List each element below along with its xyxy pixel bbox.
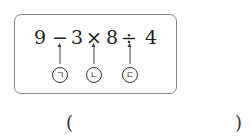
arrow-up-icon: [130, 46, 131, 64]
arrow-up-icon: [60, 46, 61, 64]
arrow-up-icon: [94, 46, 95, 64]
number-9: 9: [34, 24, 46, 50]
answer-blank[interactable]: [76, 112, 232, 134]
marker-giyeok: ㄱ: [52, 67, 68, 83]
answer-close-paren: ): [235, 112, 242, 134]
number-8: 8: [106, 24, 118, 50]
number-3: 3: [71, 24, 83, 50]
expression: 9 − 3 × 8 ÷ 4: [0, 24, 252, 50]
marker-nieun: ㄴ: [86, 67, 102, 83]
number-4: 4: [145, 24, 157, 50]
marker-digeut: ㄷ: [122, 67, 138, 83]
answer-open-paren: (: [66, 112, 73, 134]
